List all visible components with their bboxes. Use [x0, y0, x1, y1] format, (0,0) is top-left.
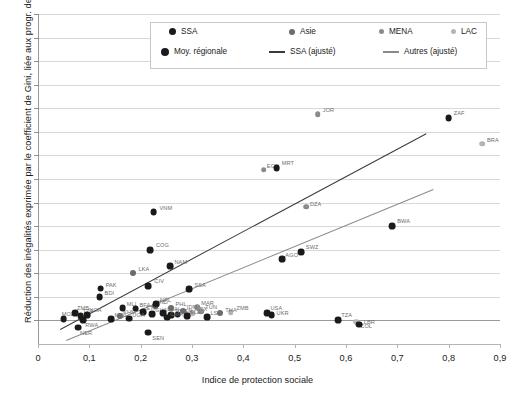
y-gridline: [38, 179, 500, 180]
legend-line-swatch: [269, 51, 285, 53]
data-point[interactable]: [303, 204, 309, 210]
y-gridline: [38, 226, 500, 227]
y-gridline: [38, 273, 500, 274]
legend-dot-swatch: [379, 29, 384, 34]
legend-item-ssa--ajust--[interactable]: SSA (ajusté): [269, 47, 336, 56]
y-gridline: [38, 108, 500, 109]
x-tick-mark: [38, 344, 39, 348]
legend-item-mena[interactable]: MENA: [379, 27, 413, 36]
y-tick-mark: [34, 85, 39, 86]
data-point-label: MWI: [114, 312, 126, 318]
data-point[interactable]: [147, 246, 154, 253]
data-point-label: LKA: [138, 266, 149, 272]
y-tick-mark: [34, 179, 39, 180]
x-axis-title: Indice de protection sociale: [0, 375, 515, 385]
data-point-label: TZA: [341, 312, 352, 318]
data-point-label: BRA: [487, 137, 499, 143]
data-point[interactable]: [145, 329, 152, 336]
data-point[interactable]: [130, 270, 136, 276]
y-tick-mark: [34, 297, 39, 298]
x-tick-label: 0,3: [186, 353, 199, 363]
data-point-label: SWZ: [306, 244, 319, 250]
data-point-label: JOR: [323, 107, 335, 113]
y-axis-title: Réduction des inégalités exprimée par le…: [23, 23, 33, 323]
data-point[interactable]: [355, 321, 362, 328]
data-point-label: LSO: [210, 310, 222, 316]
legend-item-lac[interactable]: LAC: [451, 27, 477, 36]
data-point-label: DZA: [310, 201, 322, 207]
y-gridline: [38, 297, 500, 298]
legend-item-autres--ajust--[interactable]: Autres (ajusté): [383, 47, 457, 56]
data-point[interactable]: [297, 249, 304, 256]
legend-label: SSA: [181, 27, 197, 36]
data-point-label: UKR: [277, 310, 289, 316]
legend-item-ssa[interactable]: SSA: [169, 27, 197, 36]
data-point-label: NPL: [160, 297, 171, 303]
y-tick-mark: [34, 250, 39, 251]
data-point-label: NER: [80, 330, 92, 336]
data-point[interactable]: [97, 285, 104, 292]
x-tick-mark: [397, 344, 398, 348]
data-point[interactable]: [445, 114, 452, 121]
data-point[interactable]: [145, 283, 152, 290]
data-point[interactable]: [479, 141, 485, 147]
data-point[interactable]: [273, 165, 280, 172]
data-point-label: MRT: [282, 160, 294, 166]
y-tick-mark: [34, 108, 39, 109]
y-gridline: [38, 14, 500, 15]
data-point-label: PAK: [106, 282, 117, 288]
data-point-label: SEN: [152, 335, 164, 341]
legend-item-asie[interactable]: Asie: [289, 27, 316, 36]
x-tick-label: 0,8: [442, 353, 455, 363]
y-gridline: [38, 85, 500, 86]
data-point[interactable]: [315, 111, 321, 117]
data-point[interactable]: [96, 293, 103, 300]
legend-label: Asie: [300, 27, 316, 36]
y-gridline: [38, 155, 500, 156]
data-point[interactable]: [268, 312, 275, 319]
data-point-label: COG: [156, 242, 169, 248]
y-tick-mark: [34, 273, 39, 274]
data-point-label: SSA: [194, 282, 206, 288]
y-tick-mark: [34, 38, 39, 39]
x-tick-mark: [449, 344, 450, 348]
x-tick-mark: [192, 344, 193, 348]
data-point-label: RWA: [85, 322, 98, 328]
x-tick-mark: [346, 344, 347, 348]
y-tick-mark: [34, 61, 39, 62]
chart-legend: SSAAsieMENALACMoy. régionaleSSA (ajusté)…: [150, 22, 487, 69]
x-tick-label: 0,2: [134, 353, 147, 363]
y-tick-mark: [34, 320, 39, 321]
x-tick-label: 0,1: [83, 353, 96, 363]
data-point-label: CIV: [154, 278, 164, 284]
data-point[interactable]: [389, 223, 396, 230]
data-point[interactable]: [167, 263, 174, 270]
x-axis-line: [38, 344, 500, 345]
data-point[interactable]: [150, 209, 157, 216]
y-tick-mark: [34, 226, 39, 227]
legend-item-moy--r-gionale[interactable]: Moy. régionale: [161, 47, 227, 56]
x-tick-label: 0,4: [237, 353, 250, 363]
data-point-label: BWA: [397, 218, 410, 224]
y-gridline: [38, 250, 500, 251]
data-point-label: SLE: [190, 309, 201, 315]
x-tick-label: 0: [35, 353, 40, 363]
legend-dot-swatch: [161, 48, 169, 56]
legend-dot-swatch: [451, 29, 456, 34]
x-tick-mark: [295, 344, 296, 348]
data-point-label: UGA: [132, 312, 144, 318]
data-point-label: BDI: [105, 290, 115, 296]
data-point-label: VNM: [160, 205, 173, 211]
data-point[interactable]: [186, 286, 193, 293]
legend-label: MENA: [389, 27, 413, 36]
data-point[interactable]: [261, 167, 267, 173]
y-tick-mark: [34, 132, 39, 133]
data-point-label: THA: [225, 307, 237, 313]
x-tick-label: 0,5: [288, 353, 301, 363]
x-tick-label: 0,6: [340, 353, 353, 363]
legend-dot-swatch: [169, 28, 176, 35]
y-tick-mark: [34, 203, 39, 204]
data-point-label: ZMB: [237, 305, 249, 311]
legend-label: Autres (ajusté): [404, 47, 457, 56]
data-point[interactable]: [119, 305, 126, 312]
